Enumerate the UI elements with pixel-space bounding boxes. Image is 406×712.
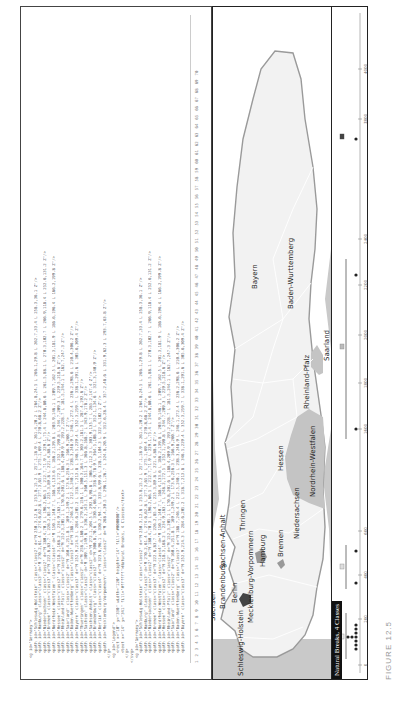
line-number: 36 <box>194 371 199 376</box>
legend-data-point <box>354 631 357 634</box>
legend-data-point <box>354 273 357 276</box>
line-number: 21 <box>194 503 199 508</box>
label-bremen: Bremen <box>277 530 285 557</box>
line-number: 25 <box>194 468 199 473</box>
legend-histogram: 02004006001600180020002200240038004000 <box>332 7 368 679</box>
line-number: 53 <box>194 221 199 226</box>
line-number: 50 <box>194 247 199 252</box>
line-number: 12 <box>194 583 199 588</box>
line-number: 17 <box>194 539 199 544</box>
line-number: 33 <box>194 397 199 402</box>
label-thringen: Thringen <box>239 500 247 532</box>
line-number: 26 <box>194 459 199 464</box>
legend-data-point <box>346 635 349 638</box>
label-sachsen-anhalt: Sachsen-Anhalt <box>219 514 227 569</box>
line-number: 65 <box>194 115 199 120</box>
rotated-page: <g id="Germany"> <path id="Schleswig-Hol… <box>0 0 406 712</box>
line-number: 27 <box>194 450 199 455</box>
line-number: 45 <box>194 291 199 296</box>
legend-tick-label: 2200 <box>363 279 368 290</box>
line-number: 32 <box>194 406 199 411</box>
legend-data-point <box>354 639 357 642</box>
line-number: 39 <box>194 344 199 349</box>
line-number: 56 <box>194 194 199 199</box>
line-number: 20 <box>194 512 199 517</box>
line-number: 68 <box>194 88 199 93</box>
label-hessen: Hessen <box>277 445 285 471</box>
legend-class-3-swatch <box>340 344 344 349</box>
line-number: 22 <box>194 494 199 499</box>
line-number: 66 <box>194 106 199 111</box>
label-mecklenburg-vorpommern: Mecklenburg-Vorpommern <box>247 531 255 623</box>
label-bayern: Bayern <box>251 264 259 289</box>
label-brandenburg: Brandenburg <box>219 563 227 609</box>
map-panel: Schleswig-Holstein Hamburg Mecklenburg-V… <box>212 6 368 680</box>
legend-data-point <box>354 643 357 646</box>
line-number: 16 <box>194 547 199 552</box>
line-number: 57 <box>194 185 199 190</box>
line-number: 70 <box>194 71 199 76</box>
code-view[interactable]: <g id="Germany"> <path id="Schleswig-Hol… <box>29 15 185 663</box>
line-number: 35 <box>194 380 199 385</box>
legend-data-point <box>354 549 357 552</box>
line-number: 41 <box>194 327 199 332</box>
line-number: 34 <box>194 389 199 394</box>
line-number: 7 <box>194 622 199 624</box>
line-number: 18 <box>194 530 199 535</box>
code-editor-panel: <g id="Germany"> <path id="Schleswig-Hol… <box>20 6 212 680</box>
line-number: 55 <box>194 203 199 208</box>
legend-tick-label: 200 <box>363 615 368 623</box>
line-number: 4 <box>194 641 199 643</box>
figure-caption: FIGURE 12.5 <box>384 621 393 680</box>
label-berlin: Berlin <box>231 583 239 603</box>
label-nordrhein-westfalen: Nordrhein-Westfalen <box>309 426 317 498</box>
line-number: 67 <box>194 97 199 102</box>
legend-data-point <box>354 647 357 650</box>
legend-data-point <box>354 427 357 430</box>
label-rheinland-pfalz: Rheinland-Pfalz <box>303 354 311 409</box>
line-number: 52 <box>194 230 199 235</box>
line-number: 37 <box>194 362 199 367</box>
line-number: 51 <box>194 238 199 243</box>
map-labels: Schleswig-Holstein Hamburg Mecklenburg-V… <box>213 7 331 679</box>
label-sachsen: Sachsen <box>212 592 217 621</box>
line-number: 6 <box>194 628 199 630</box>
legend-data-point <box>354 627 357 630</box>
line-number: 69 <box>194 80 199 85</box>
line-number: 23 <box>194 486 199 491</box>
line-number: 24 <box>194 477 199 482</box>
line-number: 14 <box>194 565 199 570</box>
legend-tick-label: 2400 <box>363 233 368 244</box>
line-number: 58 <box>194 177 199 182</box>
line-number: 62 <box>194 141 199 146</box>
line-number: 54 <box>194 212 199 217</box>
line-number: 31 <box>194 415 199 420</box>
line-number: 63 <box>194 132 199 137</box>
line-number: 2 <box>194 654 199 656</box>
line-number: 29 <box>194 433 199 438</box>
line-number: 48 <box>194 265 199 270</box>
line-number: 44 <box>194 300 199 305</box>
line-number: 5 <box>194 635 199 637</box>
line-number: 9 <box>194 609 199 611</box>
map-legend: 02004006001600180020002200240038004000 N… <box>331 7 368 679</box>
line-number: 38 <box>194 353 199 358</box>
line-number: 49 <box>194 256 199 261</box>
line-number: 11 <box>194 592 199 597</box>
line-number: 30 <box>194 424 199 429</box>
label-niedersachsen: Niedersachsen <box>293 487 301 539</box>
line-number: 1 <box>194 661 199 663</box>
legend-tick-label: 0 <box>363 663 368 666</box>
legend-tick-label: 1600 <box>363 423 368 434</box>
line-number: 61 <box>194 150 199 155</box>
line-number: 19 <box>194 521 199 526</box>
legend-tick-label: 4000 <box>363 63 368 74</box>
line-number: 60 <box>194 159 199 164</box>
legend-data-point <box>350 635 353 638</box>
line-number-strip: 1234567891011121314151617181920212223242… <box>190 15 209 663</box>
legend-class-2-swatch <box>340 564 344 569</box>
label-saarland: Saarland <box>323 330 331 361</box>
line-number: 13 <box>194 574 199 579</box>
legend-data-point <box>354 623 357 626</box>
line-number: 10 <box>194 600 199 605</box>
